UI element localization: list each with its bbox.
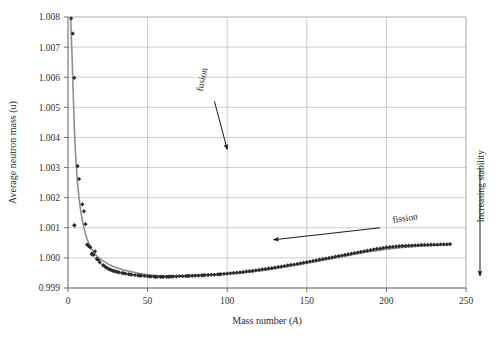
y-tick-label: 1.006 <box>39 73 61 83</box>
data-point-marker <box>80 202 84 206</box>
y-tick-label: 1.000 <box>39 253 61 263</box>
annotation-arrow-fusion <box>214 101 227 149</box>
neutron-mass-chart: 0.9991.0001.0011.0021.0031.0041.0051.006… <box>0 0 502 339</box>
x-tick-label: 100 <box>220 296 235 306</box>
x-tick-label: 150 <box>300 296 315 306</box>
y-tick-label: 1.007 <box>39 43 61 53</box>
y-axis-title: Average neutron mass (u) <box>7 101 19 204</box>
x-tick-label: 250 <box>459 296 474 306</box>
y-tick-label: 0.999 <box>39 283 61 293</box>
data-point-marker <box>448 242 452 246</box>
y-tick-label: 1.003 <box>39 163 61 173</box>
trend-line <box>71 17 451 276</box>
annotation-arrow-fission <box>273 228 380 240</box>
annotation-label-fission: fission <box>392 211 419 224</box>
annotation-label-fusion: fusion <box>195 67 210 93</box>
y-tick-label: 1.008 <box>39 12 61 22</box>
x-axis-title: Mass number (A) <box>232 315 301 327</box>
y-tick-label: 1.004 <box>39 133 61 143</box>
annotation-label-increasing-stability: Increasing stability <box>476 150 486 223</box>
figure-container: 0.9991.0001.0011.0021.0031.0041.0051.006… <box>0 0 502 339</box>
x-tick-label: 200 <box>379 296 394 306</box>
data-point-outlier <box>72 223 77 228</box>
trend-curve <box>71 17 451 276</box>
data-point-marker <box>82 209 86 213</box>
y-tick-label: 1.001 <box>39 223 61 233</box>
y-tick-label: 1.005 <box>39 103 61 113</box>
x-tick-label: 0 <box>66 296 71 306</box>
data-points <box>69 16 452 279</box>
x-axis-title-tail: ) <box>298 315 301 327</box>
x-axis-title-text: Mass number ( <box>232 315 293 327</box>
axis-ticks <box>64 17 466 292</box>
x-tick-label: 50 <box>143 296 153 306</box>
y-tick-label: 1.002 <box>39 193 61 203</box>
